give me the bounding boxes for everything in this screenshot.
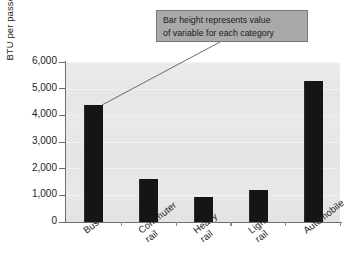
y-axis-tick — [59, 142, 66, 143]
y-axis-tick — [59, 62, 66, 63]
annotation-line-1: Bar height represents value — [163, 14, 302, 27]
y-axis-tick — [59, 88, 66, 89]
bar — [84, 105, 103, 222]
annotation-line-2: of variable for each category — [163, 27, 302, 40]
y-axis-tick-label: 0 — [5, 215, 57, 226]
y-axis-tick — [59, 115, 66, 116]
y-axis-tick-label: 3,000 — [5, 135, 57, 146]
y-axis-tick-label: 2,000 — [5, 162, 57, 173]
bar — [304, 81, 323, 222]
x-axis-tick — [340, 222, 341, 226]
y-axis-tick-label: 5,000 — [5, 82, 57, 93]
x-axis-tick — [121, 222, 122, 226]
y-axis-title: BTU per passenger-mile — [4, 0, 18, 88]
x-axis-tick — [285, 222, 286, 226]
y-axis-tick — [59, 195, 66, 196]
x-axis-tick — [230, 222, 231, 226]
y-axis-tick — [59, 222, 66, 223]
bar-chart-figure: BTU per passenger-mile 01,0002,0003,0004… — [0, 0, 349, 280]
y-axis-tick-label: 4,000 — [5, 108, 57, 119]
annotation-callout: Bar height represents value of variable … — [156, 10, 308, 42]
y-axis-tick-label: 1,000 — [5, 188, 57, 199]
y-axis-tick — [59, 168, 66, 169]
y-axis-tick-label: 6,000 — [5, 55, 57, 66]
